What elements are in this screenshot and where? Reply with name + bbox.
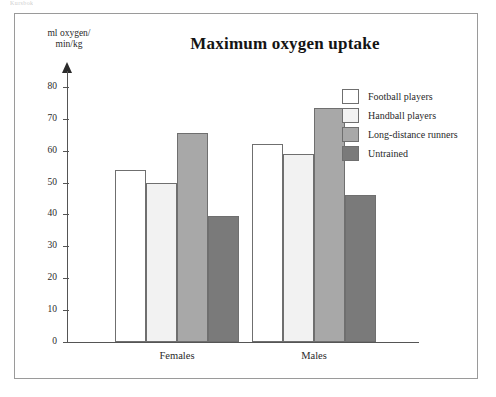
bar xyxy=(208,216,239,342)
y-axis-tick-label: 40 xyxy=(27,208,57,218)
y-axis-tick-label: 10 xyxy=(27,304,57,314)
y-axis-tick-label: 60 xyxy=(27,145,57,155)
top-caption: Kursbok xyxy=(10,0,33,8)
y-axis-tick-label: 50 xyxy=(27,177,57,187)
legend-item: Football players xyxy=(342,87,458,106)
y-axis-title-line1: ml oxygen/ xyxy=(47,28,90,38)
y-axis-tick-label: 30 xyxy=(27,240,57,250)
bar xyxy=(115,170,146,342)
bar xyxy=(345,195,376,342)
y-axis-tick-label: 70 xyxy=(27,113,57,123)
bar xyxy=(146,183,177,342)
y-axis-tick xyxy=(63,342,69,343)
legend-swatch xyxy=(342,146,359,161)
y-axis-title-line2: min/kg xyxy=(56,39,83,49)
y-axis-title: ml oxygen/ min/kg xyxy=(23,28,115,50)
legend-item-label: Long-distance runners xyxy=(368,129,458,140)
legend-item-label: Handball players xyxy=(368,110,436,121)
y-axis-tick-label: 80 xyxy=(27,81,57,91)
y-axis-tick-label: 20 xyxy=(27,272,57,282)
legend-item: Long-distance runners xyxy=(342,125,458,144)
chart-title: Maximum oxygen uptake xyxy=(155,34,415,54)
bar xyxy=(314,108,345,342)
legend-swatch xyxy=(342,108,359,123)
y-axis-tick-label: 0 xyxy=(27,336,57,346)
legend-item: Handball players xyxy=(342,106,458,125)
x-axis-line xyxy=(67,342,419,343)
bar xyxy=(252,144,283,342)
legend-item: Untrained xyxy=(342,144,458,163)
legend-swatch xyxy=(342,127,359,142)
legend-item-label: Football players xyxy=(368,91,433,102)
bar xyxy=(177,133,208,342)
chart-legend: Football playersHandball playersLong-dis… xyxy=(342,87,458,163)
x-axis-category-label: Males xyxy=(232,350,396,361)
chart-plot-area: ml oxygen/ min/kg Maximum oxygen uptake … xyxy=(15,14,479,380)
bar xyxy=(283,154,314,342)
legend-item-label: Untrained xyxy=(368,148,408,159)
figure-frame: ml oxygen/ min/kg Maximum oxygen uptake … xyxy=(14,13,478,379)
legend-swatch xyxy=(342,89,359,104)
